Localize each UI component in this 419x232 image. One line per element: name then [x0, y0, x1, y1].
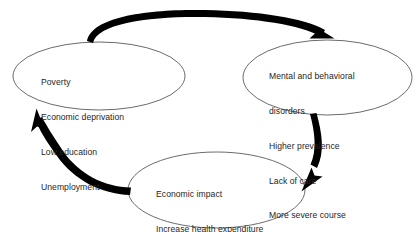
- mental-line-3: Higher prevalence: [269, 141, 355, 153]
- poverty-line-3: Low education: [41, 147, 124, 159]
- mental-line-1: Mental and behavioral: [269, 71, 355, 83]
- economic-line-2: Increase health expenditure: [156, 224, 263, 232]
- economic-impact-node-label: Economic impact Increase health expendit…: [156, 166, 263, 232]
- mental-disorders-node-label: Mental and behavioral disorders Higher p…: [269, 48, 355, 232]
- mental-line-2: disorders: [269, 106, 355, 118]
- poverty-line-1: Poverty: [41, 77, 124, 89]
- cycle-diagram: Poverty Economic deprivation Low educati…: [0, 0, 419, 232]
- mental-line-4: Lack of care: [269, 176, 355, 188]
- poverty-node-label: Poverty Economic deprivation Low educati…: [41, 54, 124, 216]
- economic-line-1: Economic impact: [156, 189, 263, 201]
- arrow-poverty-to-mental: [87, 10, 335, 43]
- poverty-line-4: Unemployment: [41, 182, 124, 194]
- mental-line-5: More severe course: [269, 210, 355, 222]
- poverty-line-2: Economic deprivation: [41, 112, 124, 124]
